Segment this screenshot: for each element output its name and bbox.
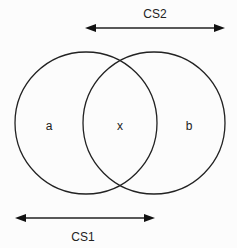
cs1-arrow-right-head bbox=[144, 214, 155, 222]
cs2-arrow-right-head bbox=[214, 24, 225, 32]
region-label-b: b bbox=[186, 119, 193, 133]
region-label-a: a bbox=[46, 119, 53, 133]
venn-diagram: CS2 a x b CS1 bbox=[0, 0, 237, 248]
left-circle bbox=[15, 52, 157, 194]
cs1-arrow bbox=[15, 214, 155, 222]
cs2-arrow-left-head bbox=[85, 24, 96, 32]
right-circle bbox=[83, 52, 225, 194]
cs2-arrow bbox=[85, 24, 225, 32]
cs2-label: CS2 bbox=[143, 7, 167, 21]
cs1-label: CS1 bbox=[71, 230, 95, 244]
cs1-arrow-left-head bbox=[15, 214, 26, 222]
region-label-x: x bbox=[117, 119, 123, 133]
